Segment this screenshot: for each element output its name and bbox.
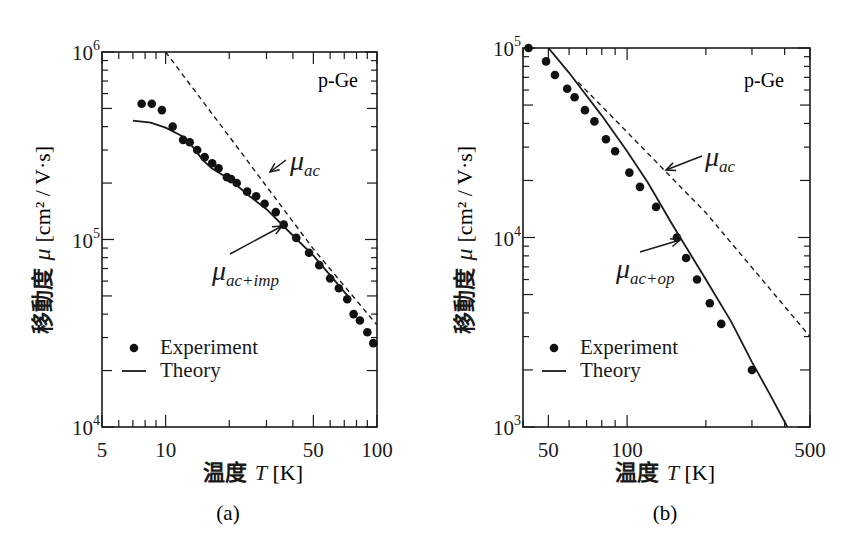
dashed-curve-mu-ac (578, 82, 810, 336)
axis-ticks (523, 48, 810, 427)
y-axis-title: 移動度 μ [cm² / V·s] (29, 146, 55, 334)
x-tick-label: 50 (303, 438, 324, 462)
y-axis-title: 移動度 μ [cm² / V·s] (451, 146, 477, 334)
annotation-arrow-icon (270, 160, 286, 172)
figure-canvas: 51050100106105104移動度 μ [cm² / V·s]温度 T [… (0, 0, 856, 555)
legend-label: Theory (580, 358, 641, 382)
label-mu-theory: μac+imp (211, 255, 279, 290)
annotation-arrow-icon (230, 226, 282, 254)
y-tick-label: 105 (493, 34, 521, 61)
y-tick-label: 104 (72, 413, 100, 440)
x-tick-label: 5 (97, 438, 108, 462)
label-mu-theory: μac+op (615, 253, 675, 288)
label-mu-ac: μac (289, 145, 321, 180)
x-axis-title: 温度 T [K] (615, 460, 715, 485)
x-tick-label: 10 (155, 438, 176, 462)
legend-dot-icon (130, 344, 139, 353)
legend-label: Experiment (160, 335, 258, 359)
x-tick-label: 50 (538, 438, 559, 462)
legend-dot-icon (550, 344, 559, 353)
plot-frame (523, 48, 810, 427)
annotation-arrow-icon (666, 156, 702, 170)
x-tick-label: 100 (611, 438, 643, 462)
chart-panel-a: 51050100106105104移動度 μ [cm² / V·s]温度 T [… (29, 38, 393, 525)
x-axis-title: 温度 T [K] (203, 460, 303, 485)
sample-label: p-Ge (744, 69, 784, 92)
label-mu-ac: μac (704, 141, 736, 176)
chart-panel-b: 50100500105104103移動度 μ [cm² / V·s]温度 T [… (451, 34, 826, 525)
y-tick-label: 103 (493, 413, 521, 440)
experiment-points (524, 44, 756, 375)
y-tick-label: 105 (72, 226, 100, 253)
legend: ExperimentTheory (122, 335, 258, 382)
experiment-points (137, 99, 377, 347)
y-tick-label: 106 (72, 38, 100, 65)
panel-caption: (a) (216, 501, 239, 525)
legend-label: Experiment (580, 335, 678, 359)
x-tick-label: 500 (794, 438, 826, 462)
x-tick-label: 100 (361, 438, 393, 462)
panel-caption: (b) (653, 501, 678, 525)
y-tick-label: 104 (493, 224, 521, 251)
legend-label: Theory (160, 358, 221, 382)
sample-label: p-Ge (318, 69, 358, 92)
annotation-arrow-icon (640, 239, 680, 252)
legend: ExperimentTheory (542, 335, 678, 382)
